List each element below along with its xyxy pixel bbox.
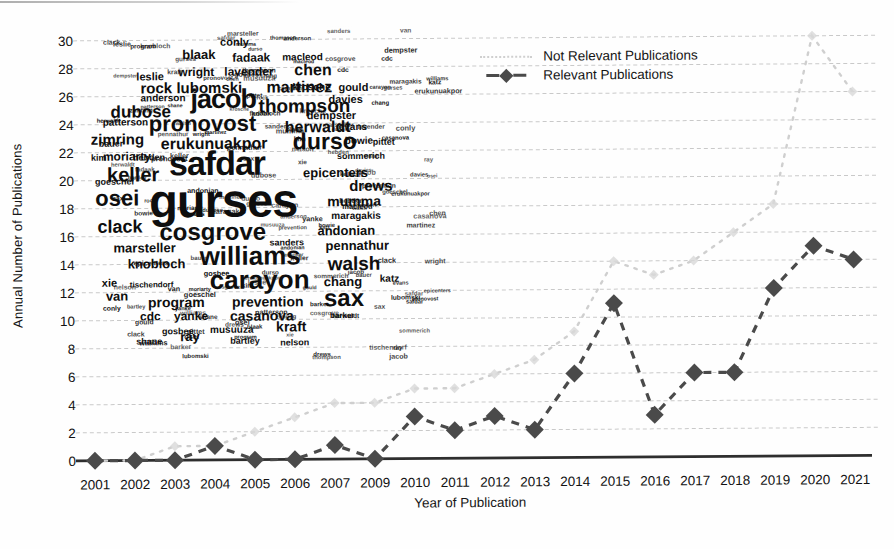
cloud-word-filler: conly: [396, 125, 416, 132]
cloud-word-filler: krosche: [300, 108, 326, 115]
x-tick-label: 2017: [680, 473, 710, 488]
cloud-word-filler: durso: [248, 47, 262, 52]
not-relevant-marker: [409, 383, 419, 393]
y-tick-label: 16: [59, 230, 74, 245]
cloud-word-filler: bauer: [191, 255, 208, 261]
cloud-word-filler: pronovost: [203, 75, 233, 81]
cloud-word-filler: gurses: [175, 56, 196, 62]
cloud-word: chen: [294, 62, 331, 77]
x-tick-label: 2007: [320, 476, 350, 491]
cloud-word-filler: cdc: [337, 67, 349, 73]
y-tick-label: 12: [60, 286, 75, 301]
not-relevant-marker: [649, 270, 659, 280]
y-tick-label: 22: [59, 146, 74, 161]
cloud-word-filler: gosbee: [204, 271, 230, 278]
cloud-word-filler: herwaldt: [332, 313, 359, 319]
x-tick-label: 2018: [720, 473, 750, 488]
relevant-marker-diamond: [565, 364, 583, 382]
cloud-word-filler: sanders: [327, 28, 350, 34]
dash-icon: [486, 74, 499, 77]
cloud-word-filler: fadaak: [250, 111, 272, 118]
cloud-word-filler: erukunuakpor: [414, 88, 462, 95]
cloud-word-filler: evans: [393, 281, 409, 286]
x-tick-label: 2019: [760, 472, 790, 487]
not-relevant-marker: [569, 326, 579, 336]
cloud-word-filler: herwaldt: [97, 119, 121, 125]
cloud-word-filler: anderson: [280, 214, 307, 220]
cloud-word: sax: [324, 287, 364, 310]
relevant-marker-diamond: [605, 294, 623, 312]
relevant-marker-diamond: [845, 250, 863, 268]
y-tick-label: 2: [68, 426, 76, 441]
y-tick-label: 26: [58, 90, 73, 105]
chart-area: 0246810121416182022242628302001200220032…: [0, 0, 894, 549]
cloud-word-filler: cosgrove: [325, 56, 355, 63]
y-axis-title: Annual Number of Publications: [9, 121, 26, 351]
cloud-word-filler: ray: [393, 346, 402, 352]
cloud-word-filler: macleod: [293, 59, 314, 64]
cloud-word-filler: epicenters: [424, 288, 451, 293]
dotted-line-icon: [480, 55, 532, 57]
cloud-word-filler: kim: [294, 136, 306, 143]
cloud-word: marsteller: [113, 242, 175, 255]
cloud-word-filler: pittet: [246, 93, 262, 99]
relevant-marker-diamond: [286, 450, 304, 468]
cloud-word-filler: tischendorf: [346, 203, 377, 209]
y-tick-label: 0: [68, 454, 76, 469]
cloud-word-filler: dubose: [202, 208, 223, 214]
cloud-word-filler: erukunuakpor: [245, 275, 280, 280]
cloud-word-filler: cosgrove: [215, 285, 240, 291]
cloud-word-filler: sommerich: [399, 328, 430, 334]
cloud-word-filler: musuuza: [260, 222, 284, 227]
cloud-word-filler: hebden: [328, 150, 349, 156]
cloud-word-filler: dempster: [113, 73, 137, 78]
cloud-word-filler: shane: [168, 103, 183, 108]
cloud-word-filler: carayon: [271, 202, 298, 209]
cloud-word-filler: program: [234, 335, 257, 340]
cloud-word: maragakis: [331, 211, 381, 221]
cloud-word-filler: sommerich: [314, 273, 349, 279]
not-relevant-marker: [807, 31, 817, 41]
x-tick-label: 2013: [520, 474, 550, 489]
x-axis-title: Year of Publication: [330, 494, 610, 511]
cloud-word-filler: katz: [319, 225, 329, 230]
x-tick-label: 2010: [400, 475, 430, 490]
legend-item-relevant: Relevant Publications: [475, 65, 698, 86]
cloud-word-filler: rock: [144, 198, 156, 203]
x-tick-label: 2014: [560, 474, 591, 489]
x-tick-label: 2012: [480, 474, 510, 489]
legend-label-relevant: Relevant Publications: [543, 67, 673, 83]
cloud-word-filler: jacob: [348, 269, 364, 275]
cloud-word-filler: xie: [286, 332, 294, 337]
cloud-word: leslie: [136, 71, 164, 82]
y-tick-label: 20: [59, 174, 74, 189]
cloud-word: bauer: [99, 140, 124, 149]
legend-item-not-relevant: Not Relevant Publications: [475, 46, 698, 67]
cloud-word-filler: gould: [303, 285, 317, 290]
cloud-word-filler: chang: [372, 101, 390, 107]
cloud-word: bowie: [345, 136, 373, 146]
not-relevant-marker: [250, 427, 260, 437]
cloud-word-filler: van: [168, 286, 180, 293]
relevant-marker-diamond: [446, 421, 464, 439]
cloud-word-filler: clack: [378, 257, 397, 264]
relevant-marker-diamond: [206, 437, 224, 455]
cloud-word-filler: andonian: [187, 188, 219, 195]
cloud-word-filler: casanova: [382, 136, 409, 142]
x-tick-label: 2005: [240, 476, 270, 491]
not-relevant-marker: [529, 355, 539, 365]
x-tick-label: 2003: [160, 477, 190, 492]
cloud-word-filler: jacob: [389, 354, 408, 361]
cloud-word-filler: gurses: [246, 201, 267, 207]
gridline: [76, 427, 878, 433]
cloud-word: kim: [91, 154, 107, 163]
y-tick-label: 18: [59, 202, 74, 217]
cloud-word-filler: kraft: [167, 69, 182, 76]
relevant-marker-diamond: [166, 451, 184, 469]
not-relevant-marker: [768, 199, 778, 209]
x-tick-label: 2016: [640, 473, 670, 488]
cloud-word-filler: krosche: [230, 107, 250, 112]
cloud-word-filler: williams: [139, 340, 167, 347]
x-tick-label: 2002: [120, 477, 150, 492]
cloud-word-filler: walsh: [176, 121, 191, 126]
